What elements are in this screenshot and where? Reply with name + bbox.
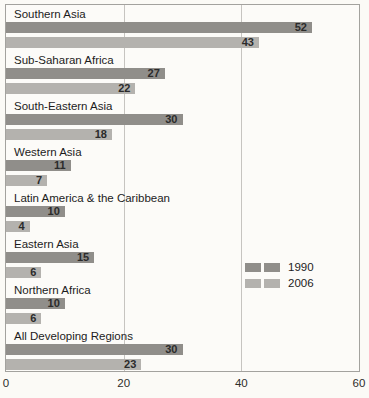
bar-row-1990: 11: [6, 160, 359, 171]
bar-row-2006: 6: [6, 313, 359, 324]
category-label: Sub-Saharan Africa: [6, 53, 359, 68]
bar-1990: 15: [6, 252, 94, 263]
value-label: 15: [77, 252, 89, 263]
bar-group: South-Eastern Asia3018: [6, 99, 359, 145]
legend-swatch-2006-icon: [264, 279, 280, 288]
legend-item-2006: 2006: [245, 277, 314, 290]
category-label: Latin America & the Caribbean: [6, 191, 359, 206]
bar-row-1990: 30: [6, 114, 359, 125]
bar-row-1990: 10: [6, 206, 359, 217]
value-label: 10: [48, 206, 60, 217]
legend-swatch-1990-icon: [264, 263, 280, 272]
value-label: 30: [165, 344, 177, 355]
bar-row-2006: 7: [6, 175, 359, 186]
value-label: 11: [54, 160, 66, 171]
category-label: Eastern Asia: [6, 237, 359, 252]
bar-groups: Southern Asia5243Sub-Saharan Africa2722S…: [6, 5, 359, 371]
bar-row-2006: 4: [6, 221, 359, 232]
category-label: All Developing Regions: [6, 329, 359, 344]
x-tick-label-40: 40: [235, 377, 248, 389]
x-tick-label-0: 0: [3, 377, 9, 389]
category-label: Western Asia: [6, 145, 359, 160]
category-label: Southern Asia: [6, 7, 359, 22]
x-tick-label-60: 60: [353, 377, 366, 389]
bar-2006: 23: [6, 359, 141, 370]
bar-row-2006: 22: [6, 83, 359, 94]
bar-1990: 27: [6, 68, 165, 79]
bar-group: Southern Asia5243: [6, 7, 359, 53]
bar-1990: 30: [6, 344, 183, 355]
bar-group: All Developing Regions3023: [6, 329, 359, 375]
value-label: 6: [30, 313, 36, 324]
bar-1990: 52: [6, 22, 312, 33]
value-label: 22: [118, 83, 130, 94]
bar-group: Latin America & the Caribbean104: [6, 191, 359, 237]
bar-2006: 43: [6, 37, 259, 48]
legend-swatch-2006-icon: [245, 279, 261, 288]
legend-item-1990: 1990: [245, 261, 314, 274]
bar-1990: 30: [6, 114, 183, 125]
x-axis: 0204060: [0, 377, 369, 393]
value-label: 10: [48, 298, 60, 309]
x-tick-label-20: 20: [117, 377, 130, 389]
value-label: 6: [30, 267, 36, 278]
plot-area: Southern Asia5243Sub-Saharan Africa2722S…: [5, 4, 360, 372]
bar-row-1990: 52: [6, 22, 359, 33]
bar-row-1990: 27: [6, 68, 359, 79]
bar-1990: 11: [6, 160, 71, 171]
value-label: 23: [124, 359, 136, 370]
bar-row-2006: 23: [6, 359, 359, 370]
bar-row-2006: 43: [6, 37, 359, 48]
category-label: South-Eastern Asia: [6, 99, 359, 114]
bar-row-2006: 18: [6, 129, 359, 140]
legend: 1990 2006: [245, 261, 314, 293]
bar-row-1990: 10: [6, 298, 359, 309]
value-label: 43: [242, 37, 254, 48]
value-label: 52: [295, 22, 307, 33]
bar-row-1990: 30: [6, 344, 359, 355]
legend-swatch-1990-icon: [245, 263, 261, 272]
bar-2006: 7: [6, 175, 47, 186]
bar-group: Western Asia117: [6, 145, 359, 191]
value-label: 7: [36, 175, 42, 186]
bar-2006: 4: [6, 221, 30, 232]
bar-2006: 6: [6, 267, 41, 278]
value-label: 18: [95, 129, 107, 140]
bar-1990: 10: [6, 206, 65, 217]
bar-group: Sub-Saharan Africa2722: [6, 53, 359, 99]
value-label: 4: [18, 221, 24, 232]
bar-chart: Southern Asia5243Sub-Saharan Africa2722S…: [0, 0, 369, 398]
legend-label-1990: 1990: [288, 261, 314, 274]
value-label: 30: [165, 114, 177, 125]
bar-2006: 22: [6, 83, 135, 94]
legend-label-2006: 2006: [288, 277, 314, 290]
bar-1990: 10: [6, 298, 65, 309]
value-label: 27: [148, 68, 160, 79]
bar-2006: 18: [6, 129, 112, 140]
bar-2006: 6: [6, 313, 41, 324]
